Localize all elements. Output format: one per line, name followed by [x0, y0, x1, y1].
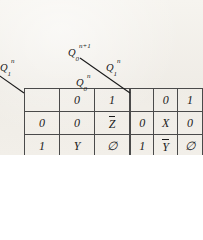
truth-table-right: 0 1 0 X 0 1 Y ∅ — [130, 88, 203, 155]
column-header-1: 1 — [178, 89, 203, 112]
table-row: 1 Y ∅ — [131, 135, 203, 156]
cell-r0c0: X — [154, 112, 178, 135]
column-header-0: 0 — [60, 89, 95, 112]
cell-r0c1-overlined: Z — [109, 116, 116, 130]
kmap-table-right: Q0n+1 Q1n Q0n 0 1 0 X 0 1 Y ∅ — [130, 88, 203, 155]
kmap-table-left: Q1n+1 Q1n Q0n 0 1 0 0 Z 1 Y ∅ — [24, 88, 130, 155]
table-row: 0 X 0 — [131, 112, 203, 135]
cell-r1c0: Y — [154, 135, 178, 156]
cell-r1c1: ∅ — [178, 135, 203, 156]
corner-spacer — [131, 89, 154, 112]
cell-r1c0-overlined: Y — [162, 139, 169, 153]
table-header-row: 0 1 — [131, 89, 203, 112]
cell-r0c1: Z — [95, 112, 130, 135]
table-row: 0 0 Z — [25, 112, 130, 135]
cell-r0c1: 0 — [178, 112, 203, 135]
row-header-1: 1 — [131, 135, 154, 156]
corner-spacer — [25, 89, 60, 112]
column-header-0: 0 — [154, 89, 178, 112]
cell-r1c0: Y — [60, 135, 95, 156]
truth-table-left: 0 1 0 0 Z 1 Y ∅ — [24, 88, 130, 155]
cell-r0c0: 0 — [60, 112, 95, 135]
row-header-1: 1 — [25, 135, 60, 156]
column-header-1: 1 — [95, 89, 130, 112]
row-header-0: 0 — [25, 112, 60, 135]
table-row: 1 Y ∅ — [25, 135, 130, 156]
table-header-row: 0 1 — [25, 89, 130, 112]
cell-r1c1: ∅ — [95, 135, 130, 156]
row-header-0: 0 — [131, 112, 154, 135]
